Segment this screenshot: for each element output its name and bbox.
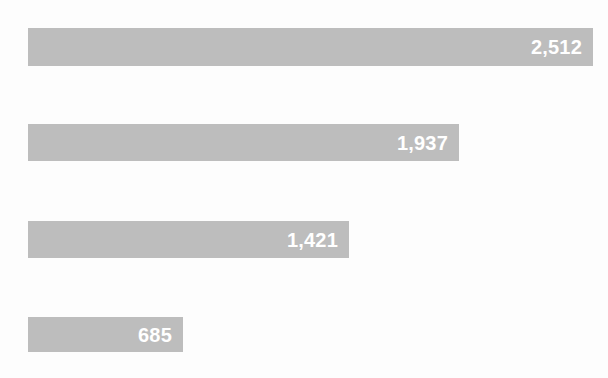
bar-value-label: 2,512 bbox=[531, 37, 593, 57]
bar-1937[interactable]: 1,937 bbox=[28, 124, 459, 161]
bar-685[interactable]: 685 bbox=[28, 317, 183, 352]
bar-row: 1,421 bbox=[0, 221, 608, 258]
bar-chart: 2,512 1,937 1,421 685 bbox=[0, 0, 608, 378]
bar-row: 2,512 bbox=[0, 28, 608, 66]
bar-value-label: 1,421 bbox=[287, 230, 349, 250]
bar-row: 1,937 bbox=[0, 124, 608, 161]
bar-row: 685 bbox=[0, 317, 608, 352]
bar-2512[interactable]: 2,512 bbox=[28, 28, 593, 66]
bar-value-label: 1,937 bbox=[397, 133, 459, 153]
bar-1421[interactable]: 1,421 bbox=[28, 221, 349, 258]
chart-plot-area: 2,512 1,937 1,421 685 bbox=[0, 0, 608, 378]
bar-value-label: 685 bbox=[138, 325, 183, 345]
